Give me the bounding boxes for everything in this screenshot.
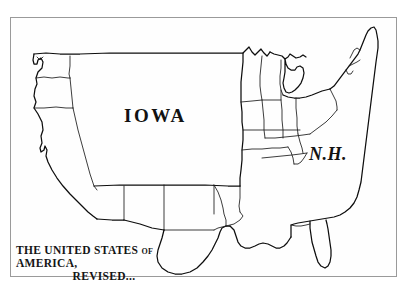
caption-line-2: REVISED... [16, 270, 186, 283]
state-label-iowa: IOWA [124, 105, 187, 127]
state-label-new-hampshire: N.H. [309, 144, 347, 165]
caption-line-1: THE UNITED STATES of AMERICA, [16, 244, 186, 270]
map-caption: THE UNITED STATES of AMERICA, REVISED... [16, 244, 186, 283]
cartoon-map-root: IOWA N.H. THE UNITED STATES of AMERICA, … [0, 0, 416, 297]
